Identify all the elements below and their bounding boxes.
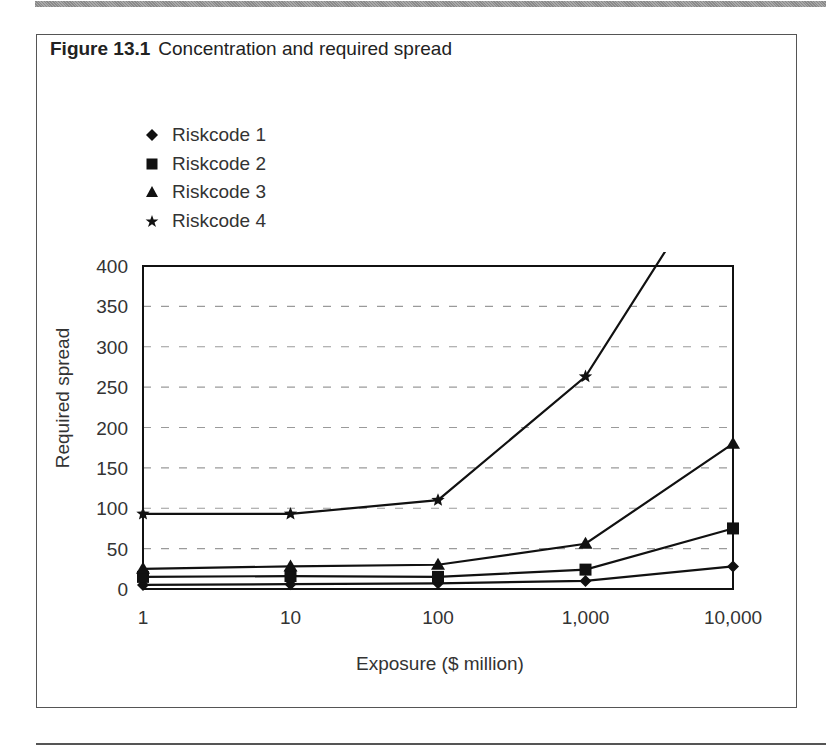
x-axis-tick-labels: 1101001,00010,000 xyxy=(138,607,762,628)
line-chart: 050100150200250300350400 1101001,00010,0… xyxy=(0,0,826,745)
series-line xyxy=(143,444,733,569)
y-tick-label: 400 xyxy=(96,256,128,277)
diamond-marker xyxy=(580,575,592,587)
square-marker xyxy=(727,522,739,534)
y-tick-label: 300 xyxy=(96,337,128,358)
square-marker xyxy=(432,571,444,583)
diamond-marker xyxy=(727,560,739,572)
x-tick-label: 1 xyxy=(138,607,149,628)
y-tick-label: 100 xyxy=(96,498,128,519)
star-marker xyxy=(284,507,297,520)
y-tick-label: 0 xyxy=(117,579,128,600)
triangle-marker xyxy=(726,437,740,449)
y-tick-label: 50 xyxy=(107,539,128,560)
y-axis-tick-labels: 050100150200250300350400 xyxy=(96,256,128,600)
square-marker xyxy=(580,564,592,576)
y-axis-label: Required spread xyxy=(52,328,73,468)
x-tick-label: 1,000 xyxy=(562,607,610,628)
series-line xyxy=(143,145,733,514)
data-series xyxy=(143,145,733,585)
triangle-marker xyxy=(579,537,593,549)
y-tick-label: 250 xyxy=(96,377,128,398)
x-axis-label: Exposure ($ million) xyxy=(356,653,524,674)
y-tick-label: 200 xyxy=(96,418,128,439)
x-tick-label: 10,000 xyxy=(704,607,762,628)
gridlines xyxy=(143,306,727,548)
x-tick-label: 10 xyxy=(280,607,301,628)
x-tick-label: 100 xyxy=(422,607,454,628)
square-marker xyxy=(285,570,297,582)
y-tick-label: 350 xyxy=(96,296,128,317)
data-markers xyxy=(136,370,740,591)
y-tick-label: 150 xyxy=(96,458,128,479)
